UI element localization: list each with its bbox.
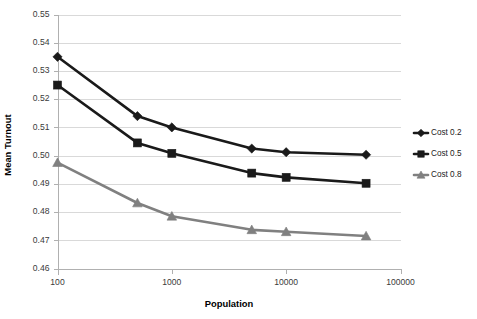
- legend-item-cost-0-2[interactable]: Cost 0.2: [414, 128, 462, 137]
- data-point-cost-0-5-50000: [362, 179, 370, 187]
- data-point-cost-0-5-5000: [248, 169, 256, 177]
- data-series: [53, 52, 371, 240]
- x-tick-label-100000: 100000: [386, 277, 415, 287]
- y-tick-label-0.47: 0.47: [33, 235, 50, 245]
- x-tick-label-1000: 1000: [162, 277, 181, 287]
- data-point-cost-0-5-100: [54, 81, 62, 89]
- legend-label: Cost 0.5: [431, 149, 462, 158]
- y-tick-label-0.49: 0.49: [33, 178, 50, 188]
- data-point-cost-0-2-1000: [167, 123, 176, 132]
- data-point-cost-0-2-50000: [361, 150, 370, 159]
- y-tick-label-0.46: 0.46: [33, 263, 50, 273]
- x-tick-label-10000: 10000: [274, 277, 298, 287]
- legend-marker-square-icon: [418, 151, 424, 157]
- y-tick-label-0.50: 0.50: [33, 150, 50, 160]
- y-tick-label-0.55: 0.55: [33, 9, 50, 19]
- legend-item-cost-0-8[interactable]: Cost 0.8: [414, 170, 462, 179]
- data-point-cost-0-5-1000: [168, 149, 176, 157]
- series-line-cost-0-8: [58, 163, 367, 236]
- y-tick-label-0.53: 0.53: [33, 65, 50, 75]
- chart-container: 0.460.470.480.490.500.510.520.530.540.55…: [0, 0, 477, 319]
- legend-item-cost-0-5[interactable]: Cost 0.5: [414, 149, 462, 158]
- y-tick-label-0.51: 0.51: [33, 122, 50, 132]
- data-point-cost-0-5-500: [133, 139, 141, 147]
- x-axis-tick-labels: 100100010000100000: [50, 277, 415, 287]
- line-chart: 0.460.470.480.490.500.510.520.530.540.55…: [0, 0, 477, 319]
- y-tick-label-0.48: 0.48: [33, 206, 50, 216]
- y-axis-tick-labels: 0.460.470.480.490.500.510.520.530.540.55: [33, 9, 50, 273]
- data-point-cost-0-2-5000: [247, 144, 256, 153]
- x-tick-label-100: 100: [50, 277, 65, 287]
- y-axis-title: Mean Turnout: [2, 114, 13, 175]
- data-point-cost-0-5-10000: [282, 173, 290, 181]
- legend-label: Cost 0.8: [431, 170, 462, 179]
- y-tick-label-0.52: 0.52: [33, 93, 50, 103]
- data-point-cost-0-8-100: [53, 158, 63, 167]
- legend-label: Cost 0.2: [431, 128, 462, 137]
- x-axis-title: Population: [205, 298, 254, 309]
- legend: Cost 0.2Cost 0.5Cost 0.8: [414, 128, 462, 179]
- data-point-cost-0-2-10000: [282, 148, 291, 157]
- legend-marker-diamond-icon: [417, 129, 425, 137]
- y-tick-label-0.54: 0.54: [33, 37, 50, 47]
